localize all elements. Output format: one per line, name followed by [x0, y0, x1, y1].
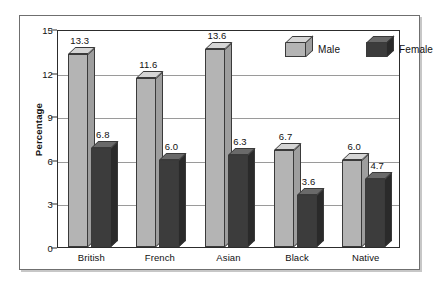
legend-item-female: Female: [366, 42, 433, 57]
bar-front-face: [365, 179, 385, 247]
bar-side-face: [248, 149, 255, 247]
legend-label: Female: [399, 44, 433, 55]
bar-front-face: [68, 54, 88, 247]
data-label: 6.3: [233, 136, 247, 147]
bar-french-female: [159, 160, 179, 247]
data-label: 6.0: [347, 141, 361, 152]
swatch-front-face: [366, 42, 387, 57]
bar-front-face: [91, 148, 111, 247]
swatch-front-face: [285, 42, 306, 57]
legend-item-male: Male: [285, 42, 340, 57]
legend-swatch-female-icon: [366, 42, 387, 57]
bar-front-face: [228, 155, 248, 247]
x-tick-label-french: French: [125, 252, 195, 263]
data-label: 11.6: [139, 59, 157, 70]
bar-native-female: [365, 179, 385, 247]
bar-front-face: [297, 195, 317, 247]
x-tick-label-native: Native: [331, 252, 401, 263]
chart-figure: Percentage 03691215 13.36.811.66.013.66.…: [0, 0, 440, 286]
x-tick-label-asian: Asian: [194, 252, 264, 263]
chart-legend: MaleFemale: [285, 42, 433, 57]
bar-side-face: [317, 188, 324, 247]
data-label: 6.7: [279, 131, 293, 142]
bar-side-face: [179, 153, 186, 247]
data-label: 13.3: [70, 35, 89, 46]
legend-label: Male: [318, 44, 340, 55]
data-label: 13.6: [208, 30, 227, 41]
bar-french-male: [136, 78, 156, 247]
bar-black-female: [297, 195, 317, 247]
y-tick-label: 12: [31, 68, 53, 79]
plot-area: 13.36.811.66.013.66.36.73.66.04.7: [57, 30, 400, 248]
bar-front-face: [342, 160, 362, 247]
bar-front-face: [136, 78, 156, 247]
x-tick-label-british: British: [56, 252, 126, 263]
bar-side-face: [385, 172, 392, 247]
bar-front-face: [205, 49, 225, 247]
bar-british-female: [91, 148, 111, 247]
y-tick-label: 3: [31, 199, 53, 210]
legend-swatch-male-icon: [285, 42, 306, 57]
data-label: 4.7: [370, 160, 384, 171]
y-axis: 03691215: [0, 30, 57, 248]
bar-side-face: [111, 142, 118, 247]
y-tick-label: 9: [31, 112, 53, 123]
bar-asian-male: [205, 49, 225, 247]
bar-asian-female: [228, 155, 248, 247]
y-tick-label: 15: [31, 25, 53, 36]
bar-british-male: [68, 54, 88, 247]
bar-front-face: [274, 150, 294, 247]
bar-front-face: [159, 160, 179, 247]
bar-native-male: [342, 160, 362, 247]
data-label: 6.8: [96, 129, 110, 140]
bar-black-male: [274, 150, 294, 247]
x-tick-label-black: Black: [262, 252, 332, 263]
data-label: 6.0: [165, 141, 179, 152]
y-tick-label: 6: [31, 155, 53, 166]
data-label: 3.6: [302, 176, 316, 187]
y-tick-label: 0: [31, 243, 53, 254]
